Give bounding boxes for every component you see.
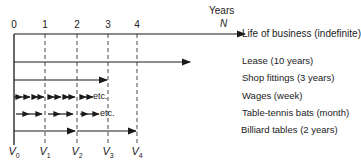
axis-end-label: N: [220, 18, 227, 29]
wages-etc: etc.: [93, 91, 108, 101]
valuation-v1: V1: [39, 145, 50, 159]
tick-0: 0: [11, 19, 17, 30]
row-label-billiard-tables: Billiard tables (2 years): [241, 124, 338, 135]
row-label-wages: Wages (week): [242, 90, 302, 101]
row-label-shop-fittings: Shop fittings (3 years): [242, 72, 334, 83]
tick-1: 1: [42, 19, 48, 30]
valuation-v4: V4: [131, 145, 142, 159]
table-tennis-etc: etc.: [100, 108, 115, 118]
valuation-v3: V3: [102, 145, 113, 159]
row-label-life-of-business: Life of business (indefinite): [242, 28, 361, 39]
row-label-lease: Lease (10 years): [242, 55, 313, 66]
tick-4: 4: [134, 19, 140, 30]
valuation-v0: V0: [8, 145, 19, 159]
row-label-table-tennis: Table-tennis bats (month): [242, 107, 349, 118]
valuation-v2: V2: [71, 145, 82, 159]
tick-3: 3: [105, 19, 111, 30]
year-gridlines: [45, 34, 137, 145]
axis-title: Years: [209, 5, 234, 16]
tick-2: 2: [74, 19, 80, 30]
